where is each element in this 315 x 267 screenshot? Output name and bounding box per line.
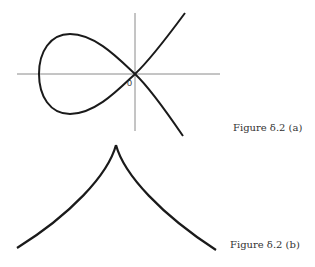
nodal-curve-lower-branch	[135, 74, 183, 136]
figure-canvas	[0, 0, 315, 267]
cusp-curve-left-branch	[17, 145, 116, 248]
figure-a-caption: Figure δ.2 (a)	[233, 122, 302, 133]
origin-label: 0	[127, 78, 132, 88]
nodal-curve-upper-branch	[135, 13, 185, 74]
figure-b-caption: Figure δ.2 (b)	[230, 239, 300, 250]
cusp-curve-right-branch	[116, 145, 216, 250]
